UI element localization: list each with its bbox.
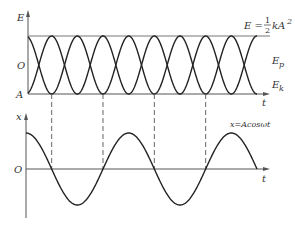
displacement-equation-label: x=Acosωt: [230, 120, 271, 129]
energy-y-label: E: [16, 12, 25, 23]
displacement-origin-label: O: [14, 164, 22, 175]
kinetic-energy-label: E k: [271, 79, 284, 93]
svg-text:p: p: [279, 60, 284, 69]
displacement-graph: x O t x=Acosωt: [14, 111, 271, 218]
svg-text:k: k: [279, 84, 284, 93]
svg-text:2: 2: [286, 17, 292, 26]
potential-energy-curve: [28, 36, 257, 94]
zero-crossing-guides: [52, 94, 206, 169]
svg-text:E =: E =: [243, 20, 263, 31]
energy-graph: E O A t E = 1 2 kA 2 E p E k: [15, 10, 292, 108]
svg-text:1: 1: [265, 16, 270, 25]
kinetic-energy-curve: [28, 36, 257, 94]
energy-t-axis-arrow-icon: [263, 92, 270, 96]
displacement-y-axis-arrow-icon: [24, 113, 28, 120]
svg-text:kA: kA: [272, 20, 285, 31]
displacement-y-label: x: [16, 111, 22, 122]
displacement-t-label: t: [262, 173, 267, 184]
total-energy-label: E = 1 2 kA 2: [243, 16, 292, 35]
energy-y-axis-arrow-icon: [26, 10, 30, 17]
potential-energy-label: E p: [271, 55, 284, 69]
energy-origin-label: O: [17, 60, 25, 71]
energy-t-label: t: [262, 97, 267, 108]
energy-displacement-figure: E O A t E = 1 2 kA 2 E p E k x O t x: [0, 0, 295, 228]
displacement-t-axis-arrow-icon: [263, 167, 270, 171]
energy-amplitude-label: A: [15, 89, 23, 100]
svg-text:2: 2: [265, 26, 270, 35]
